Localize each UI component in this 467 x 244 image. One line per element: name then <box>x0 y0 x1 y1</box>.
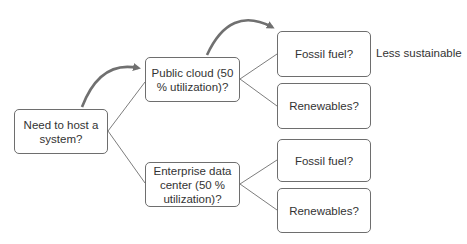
public-cloud-label: Public cloud (50 % utilization)? <box>150 66 235 94</box>
less-sustainable-annotation: Less sustainable <box>376 47 462 59</box>
node-enterprise-renewables: Renewables? <box>277 188 371 233</box>
curved-arrow-1 <box>82 67 138 107</box>
root-node-label: Need to host a system? <box>19 118 103 146</box>
edge-enterprise-fossil <box>240 160 277 184</box>
edge-root-enterprise <box>108 131 145 183</box>
enterprise-fossil-label: Fossil fuel? <box>295 154 353 168</box>
root-node-need-to-host: Need to host a system? <box>14 109 108 154</box>
edge-public-renewables <box>240 79 277 106</box>
edge-public-fossil <box>240 54 277 79</box>
public-fossil-label: Fossil fuel? <box>295 47 353 61</box>
node-public-fossil-fuel: Fossil fuel? <box>277 31 371 77</box>
node-public-renewables: Renewables? <box>277 83 371 129</box>
edge-enterprise-renewables <box>240 184 277 210</box>
curved-arrow-2 <box>207 20 272 55</box>
node-enterprise-fossil-fuel: Fossil fuel? <box>277 139 371 182</box>
enterprise-renewables-label: Renewables? <box>289 204 359 218</box>
node-public-cloud: Public cloud (50 % utilization)? <box>145 57 240 102</box>
edge-root-public-cloud <box>108 82 145 131</box>
node-enterprise-data-center: Enterprise data center (50 % utilization… <box>145 162 240 207</box>
public-renewables-label: Renewables? <box>289 99 359 113</box>
enterprise-label: Enterprise data center (50 % utilization… <box>150 164 235 206</box>
